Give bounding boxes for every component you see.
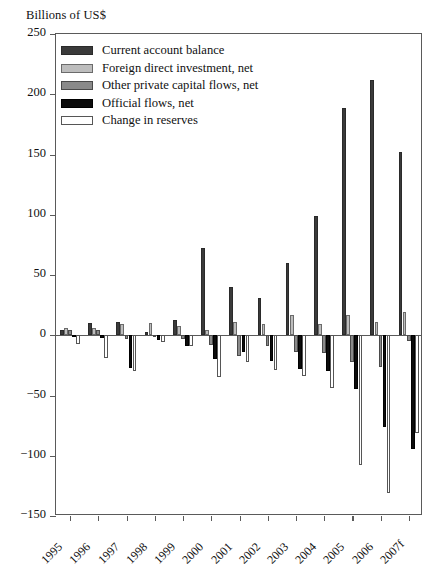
bar-2005-1 xyxy=(346,315,350,335)
x-tick-mark xyxy=(98,516,99,521)
x-tick-label: 1998 xyxy=(123,540,151,564)
x-tick-label: 2003 xyxy=(264,540,292,564)
y-tick-label: 50 xyxy=(0,266,46,281)
y-tick-mark xyxy=(50,215,56,216)
y-tick-mark xyxy=(50,456,56,457)
bar-1997-4 xyxy=(133,335,137,371)
y-axis-unit-label: Billions of US$ xyxy=(26,8,106,23)
bar-2003-4 xyxy=(302,335,306,376)
legend-swatch-current-account-balance xyxy=(61,46,93,55)
bar-1998-4 xyxy=(161,335,165,342)
y-tick-label: 100 xyxy=(0,206,46,221)
x-tick-mark xyxy=(268,516,269,521)
legend-swatch-foreign-direct-investment-net xyxy=(61,64,93,73)
x-tick-label: 2000 xyxy=(179,540,207,564)
x-tick-mark xyxy=(70,516,71,521)
x-tick-label: 2006 xyxy=(349,540,377,564)
legend-swatch-other-private-capital-flows-net xyxy=(61,81,93,90)
y-tick-label: 0 xyxy=(0,326,46,341)
x-tick-mark xyxy=(296,516,297,521)
bar-2006-4 xyxy=(387,335,391,493)
bar-2004-1 xyxy=(318,324,322,335)
y-tick-mark xyxy=(50,275,56,276)
legend-label-official-flows-net: Official flows, net xyxy=(102,97,194,110)
bar-2004-0 xyxy=(314,216,318,335)
bar-1995-4 xyxy=(76,335,80,343)
x-tick-mark xyxy=(381,516,382,521)
y-tick-label: 250 xyxy=(0,25,46,40)
x-tick-mark xyxy=(324,516,325,521)
bar-2001-4 xyxy=(246,335,250,362)
x-tick-mark xyxy=(183,516,184,521)
x-tick-label: 1999 xyxy=(151,540,179,564)
y-tick-mark xyxy=(50,34,56,35)
bar-2001-1 xyxy=(233,322,237,335)
bar-2002-1 xyxy=(262,324,266,335)
legend-label-other-private-capital-flows-net: Other private capital flows, net xyxy=(102,79,258,92)
y-tick-mark xyxy=(50,516,56,517)
legend-swatch-official-flows-net xyxy=(61,99,93,108)
bar-1999-1 xyxy=(177,326,181,336)
x-tick-label: 1997 xyxy=(95,540,123,564)
x-tick-label: 1996 xyxy=(67,540,95,564)
legend-swatch-change-in-reserves xyxy=(61,116,93,125)
x-tick-mark xyxy=(155,516,156,521)
x-tick-label: 2001 xyxy=(208,540,236,564)
y-tick-label: 150 xyxy=(0,146,46,161)
bar-2002-4 xyxy=(274,335,278,370)
chart-legend: Current account balanceForeign direct in… xyxy=(57,40,262,132)
bar-2000-0 xyxy=(201,248,205,335)
legend-label-change-in-reserves: Change in reserves xyxy=(102,114,198,127)
legend-label-current-account-balance: Current account balance xyxy=(102,44,224,57)
x-tick-label: 2002 xyxy=(236,540,264,564)
x-tick-label: 2007f xyxy=(377,537,407,564)
bar-2007f-0 xyxy=(399,152,403,335)
x-tick-mark xyxy=(240,516,241,521)
y-tick-label: −150 xyxy=(0,507,46,522)
bar-2000-4 xyxy=(217,335,221,377)
bar-2006-0 xyxy=(370,80,374,335)
bar-1998-1 xyxy=(149,323,153,335)
y-tick-mark xyxy=(50,335,56,336)
x-tick-label: 2004 xyxy=(292,540,320,564)
legend-label-foreign-direct-investment-net: Foreign direct investment, net xyxy=(102,62,253,75)
bar-2007f-4 xyxy=(415,335,419,433)
y-tick-mark xyxy=(50,396,56,397)
bar-2006-1 xyxy=(375,322,379,335)
x-tick-mark xyxy=(352,516,353,521)
bar-2005-4 xyxy=(359,335,363,465)
x-tick-label: 2005 xyxy=(321,540,349,564)
bar-2007f-1 xyxy=(403,312,407,335)
x-tick-mark xyxy=(127,516,128,521)
bar-1999-4 xyxy=(189,335,193,346)
legend-item-foreign-direct-investment-net: Foreign direct investment, net xyxy=(61,60,258,78)
bar-2003-1 xyxy=(290,315,294,335)
legend-item-other-private-capital-flows-net: Other private capital flows, net xyxy=(61,77,258,95)
x-tick-mark xyxy=(211,516,212,521)
y-tick-label: −50 xyxy=(0,387,46,402)
legend-item-change-in-reserves: Change in reserves xyxy=(61,112,258,130)
bar-1997-1 xyxy=(120,324,124,335)
y-tick-mark xyxy=(50,155,56,156)
bar-2004-4 xyxy=(330,335,334,388)
x-tick-mark xyxy=(409,516,410,521)
x-tick-label: 1995 xyxy=(38,540,66,564)
legend-item-current-account-balance: Current account balance xyxy=(61,42,258,60)
y-tick-mark xyxy=(50,94,56,95)
y-tick-label: −100 xyxy=(0,447,46,462)
bar-2005-0 xyxy=(342,108,346,336)
bar-1996-4 xyxy=(104,335,108,358)
y-tick-label: 200 xyxy=(0,85,46,100)
legend-item-official-flows-net: Official flows, net xyxy=(61,95,258,113)
